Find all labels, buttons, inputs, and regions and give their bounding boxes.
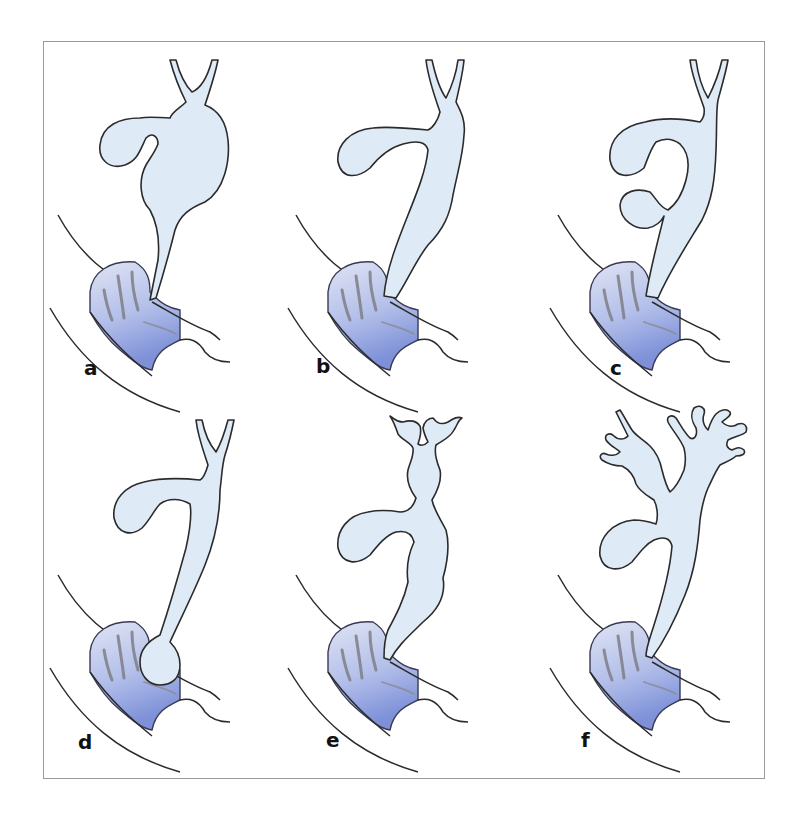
- panel-f-diagram: [550, 406, 747, 772]
- panel-e-diagram: [288, 416, 468, 772]
- panel-a-diagram: [50, 60, 230, 412]
- panel-label-f: f: [581, 728, 590, 752]
- panel-label-a: a: [84, 356, 98, 380]
- panel-label-b: b: [316, 354, 330, 378]
- panel-b-diagram: [288, 60, 468, 412]
- panel-c-diagram: [550, 60, 730, 412]
- panel-label-e: e: [326, 728, 340, 752]
- panel-d-diagram: [50, 420, 234, 772]
- panel-label-c: c: [610, 356, 622, 380]
- choledochal-cyst-diagram: [0, 0, 808, 817]
- panel-label-d: d: [78, 730, 92, 754]
